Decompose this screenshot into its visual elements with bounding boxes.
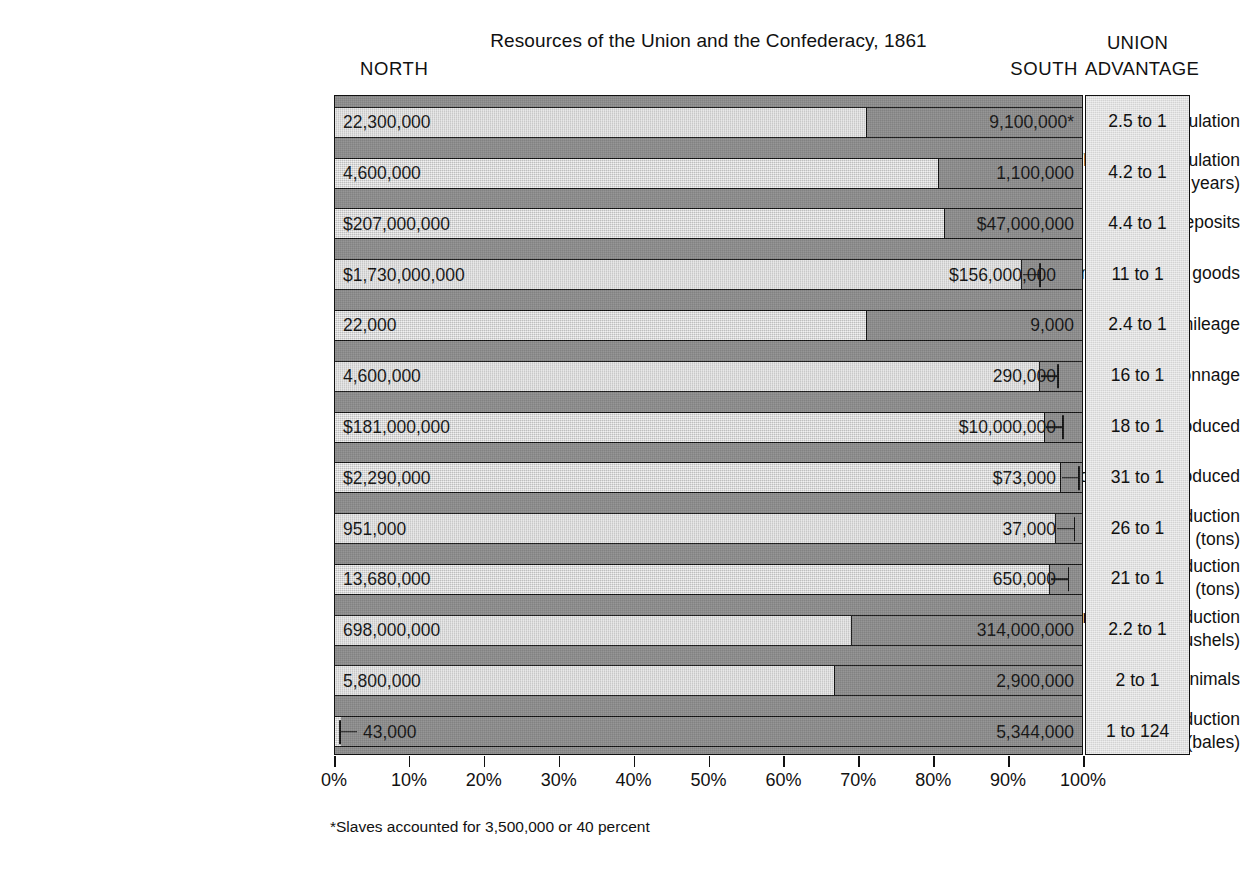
bar-segment-north xyxy=(335,159,939,188)
x-axis-tick-label: 100% xyxy=(1060,770,1106,791)
bar-row: 4,600,000290,000 xyxy=(335,361,1082,392)
bar-segment-north xyxy=(335,565,1050,594)
union-advantage-value: 11 to 1 xyxy=(1086,264,1189,285)
bar-value-south: 9,000 xyxy=(1030,315,1074,336)
union-advantage-value: 21 to 1 xyxy=(1086,568,1189,589)
x-axis-tick-label: 90% xyxy=(990,770,1026,791)
bar-row: $181,000,000$10,000,000 xyxy=(335,412,1082,443)
bar-row: 951,00037,000 xyxy=(335,513,1082,544)
column-header-union-advantage-line1: UNION xyxy=(1085,30,1190,56)
x-axis-tick-label: 50% xyxy=(690,770,726,791)
x-axis-tick-label: 80% xyxy=(915,770,951,791)
bar-segment-north xyxy=(335,311,867,340)
bar-row: 5,800,0002,900,000 xyxy=(335,665,1082,696)
leader-line-icon xyxy=(1051,579,1068,581)
bar-value-north: 4,600,000 xyxy=(343,366,421,387)
bar-value-north: 13,680,000 xyxy=(343,569,431,590)
x-axis-tick-label: 0% xyxy=(321,770,347,791)
bar-value-south: 314,000,000 xyxy=(977,620,1074,641)
bar-value-north: 951,000 xyxy=(343,518,406,539)
bar-segment-north xyxy=(335,463,1061,492)
bar-value-south: 5,344,000 xyxy=(996,721,1074,742)
x-axis-tick xyxy=(709,756,711,767)
x-axis-tick xyxy=(933,756,935,767)
x-axis-tick-label: 70% xyxy=(840,770,876,791)
plot-area: 22,300,0009,100,000*4,600,0001,100,000$2… xyxy=(334,95,1083,755)
bar-value-south: 37,000 xyxy=(1002,518,1056,539)
bar-row: 4,600,0001,100,000 xyxy=(335,158,1082,189)
column-header-union-advantage: UNION ADVANTAGE xyxy=(1085,30,1190,82)
bar-value-north: 4,600,000 xyxy=(343,163,421,184)
union-advantage-value: 16 to 1 xyxy=(1086,365,1189,386)
bar-row: $2,290,000$73,000 xyxy=(335,462,1082,493)
union-advantage-value: 2.2 to 1 xyxy=(1086,619,1189,640)
union-advantage-value: 31 to 1 xyxy=(1086,467,1189,488)
bar-segment-north xyxy=(335,514,1056,543)
bar-value-south: 2,900,000 xyxy=(996,670,1074,691)
x-axis-tick xyxy=(1008,756,1010,767)
leader-line-icon xyxy=(1023,274,1040,276)
column-header-union-advantage-line2: ADVANTAGE xyxy=(1085,56,1190,82)
x-axis: 0%10%20%30%40%50%60%70%80%90%100% xyxy=(334,756,1083,757)
bar-value-south: $47,000,000 xyxy=(977,213,1074,234)
footnote: *Slaves accounted for 3,500,000 or 40 pe… xyxy=(330,818,650,836)
x-axis-tick xyxy=(484,756,486,767)
leader-line-icon xyxy=(1046,426,1063,428)
bar-value-south: 9,100,000* xyxy=(989,112,1074,133)
x-axis-tick xyxy=(559,756,561,767)
bar-value-south: 1,100,000 xyxy=(996,163,1074,184)
bar-value-north: 5,800,000 xyxy=(343,670,421,691)
bar-value-north: 22,000 xyxy=(343,315,397,336)
bar-value-north: $2,290,000 xyxy=(343,467,431,488)
union-advantage-value: 18 to 1 xyxy=(1086,416,1189,437)
bar-row: $1,730,000,000$156,000,000 xyxy=(335,259,1082,290)
bar-value-north: 698,000,000 xyxy=(343,620,440,641)
x-axis-tick-label: 30% xyxy=(541,770,577,791)
union-advantage-value: 26 to 1 xyxy=(1086,518,1189,539)
bar-segment-north xyxy=(335,362,1040,391)
x-axis-tick xyxy=(334,756,336,767)
leader-line-icon xyxy=(340,731,357,733)
union-advantage-value: 4.2 to 1 xyxy=(1086,162,1189,183)
bar-row: 698,000,000314,000,000 xyxy=(335,615,1082,646)
union-advantage-value: 2.5 to 1 xyxy=(1086,111,1189,132)
page-title: Resources of the Union and the Confedera… xyxy=(334,30,1083,52)
union-advantage-column: 2.5 to 14.2 to 14.4 to 111 to 12.4 to 11… xyxy=(1085,95,1190,755)
bar-value-south: $73,000 xyxy=(993,467,1056,488)
bar-row: 22,0009,000 xyxy=(335,310,1082,341)
bar-value-north: 22,300,000 xyxy=(343,112,431,133)
x-axis-tick-label: 10% xyxy=(391,770,427,791)
x-axis-tick xyxy=(1083,756,1085,767)
column-header-south: SOUTH xyxy=(0,58,1078,80)
bar-row: 43,0005,344,000 xyxy=(335,716,1082,747)
x-axis-tick xyxy=(634,756,636,767)
x-axis-tick xyxy=(783,756,785,767)
x-axis-tick-label: 40% xyxy=(616,770,652,791)
union-advantage-value: 2 to 1 xyxy=(1086,670,1189,691)
leader-line-icon xyxy=(1057,528,1074,530)
bar-value-north: $207,000,000 xyxy=(343,213,450,234)
x-axis-tick xyxy=(858,756,860,767)
bar-value-south: 650,000 xyxy=(993,569,1056,590)
leader-line-icon xyxy=(1062,477,1079,479)
bar-row: $207,000,000$47,000,000 xyxy=(335,208,1082,239)
bar-value-south: $10,000,000 xyxy=(959,417,1056,438)
x-axis-tick xyxy=(409,756,411,767)
union-advantage-value: 1 to 124 xyxy=(1086,721,1189,742)
bar-value-north: 43,000 xyxy=(363,721,417,742)
union-advantage-value: 2.4 to 1 xyxy=(1086,314,1189,335)
bar-row: 22,300,0009,100,000* xyxy=(335,107,1082,138)
bar-value-north: $1,730,000,000 xyxy=(343,264,465,285)
bar-row: 13,680,000650,000 xyxy=(335,564,1082,595)
union-advantage-value: 4.4 to 1 xyxy=(1086,213,1189,234)
leader-line-icon xyxy=(1041,375,1058,377)
x-axis-tick-label: 60% xyxy=(765,770,801,791)
x-axis-tick-label: 20% xyxy=(466,770,502,791)
bar-value-north: $181,000,000 xyxy=(343,417,450,438)
